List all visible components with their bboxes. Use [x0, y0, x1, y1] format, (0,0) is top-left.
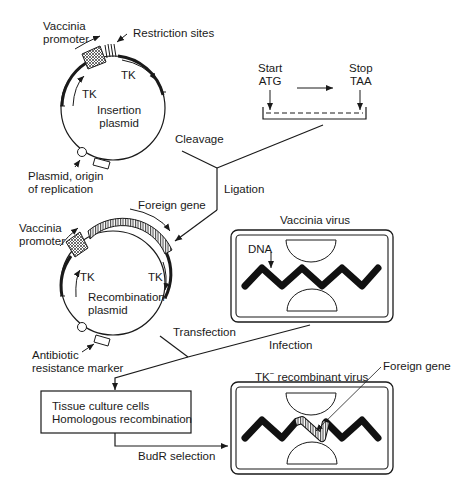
dna-label: DNA	[248, 243, 272, 256]
insertion-tk-left-label: TK	[82, 88, 97, 101]
gene-construct	[263, 88, 366, 119]
stop-codon-label: Stop TAA	[349, 62, 373, 88]
infection-label: Infection	[269, 339, 312, 352]
vaccinia-virus-title: Vaccinia virus	[280, 214, 350, 227]
recombination-plasmid-title: Recombination plasmid	[88, 291, 165, 317]
insertion-promoter-label: Vaccinia promoter	[43, 20, 89, 46]
recombination-promoter-label: Vaccinia promoter	[19, 222, 65, 248]
foreign-gene-label-plasmid: Foreign gene	[138, 199, 206, 212]
insertion-tk-right-label: TK	[121, 69, 136, 82]
cleavage-label: Cleavage	[175, 133, 224, 146]
start-codon-label: Start ATG	[258, 62, 282, 88]
antibiotic-marker-label: Antibiotic resistance marker	[32, 349, 123, 375]
insertion-plasmid	[60, 34, 166, 169]
origin-of-replication-label: Plasmid, origin of replication	[28, 170, 103, 196]
recombinant-virus-title: TK− recombinant virus	[255, 367, 368, 384]
recombination-tk-right-label: TK	[148, 271, 163, 284]
vaccinia-promoter-block	[82, 46, 106, 69]
insertion-plasmid-title: Insertion plasmid	[97, 104, 141, 130]
transfection-label: Transfection	[173, 326, 236, 339]
restriction-sites-label: Restriction sites	[133, 27, 214, 40]
recombination-tk-left-label: TK	[80, 271, 95, 284]
budr-selection-label: BudR selection	[138, 450, 215, 463]
ligation-label: Ligation	[224, 183, 264, 196]
foreign-gene-label-virus: Foreign gene	[383, 360, 451, 373]
tissue-culture-text: Tissue culture cells Homologous recombin…	[52, 400, 192, 426]
